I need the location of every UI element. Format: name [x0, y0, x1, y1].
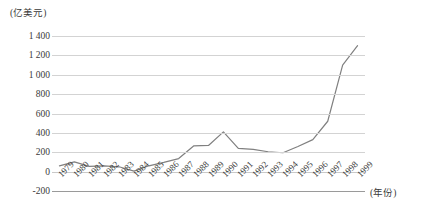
gridline-1400 [52, 36, 365, 37]
x-axis-tick-labels: 1979198019811982198319841985198619871988… [52, 172, 365, 216]
y-tick-label: -200 [4, 186, 50, 196]
y-tick-label: 600 [4, 109, 50, 119]
gridline-1200 [52, 55, 365, 56]
y-axis-tick-labels: 1 4001 2001 0008006004002000-200 [0, 36, 50, 191]
y-tick-label: 0 [4, 167, 50, 177]
y-tick-label: 200 [4, 147, 50, 157]
x-axis-unit-label: (年份) [370, 188, 396, 199]
y-tick-label: 400 [4, 128, 50, 138]
gridline-400 [52, 133, 365, 134]
gridline-1000 [52, 75, 365, 76]
y-tick-label: 1 200 [4, 50, 50, 60]
y-tick-label: 800 [4, 89, 50, 99]
y-axis-unit-label: (亿美元) [10, 8, 46, 19]
gridline-600 [52, 114, 365, 115]
gridline-200 [52, 152, 365, 153]
gridline-800 [52, 94, 365, 95]
y-tick-label: 1 000 [4, 70, 50, 80]
line-chart-figure: (亿美元) 1 4001 2001 0008006004002000-200 1… [0, 0, 422, 216]
y-tick-label: 1 400 [4, 31, 50, 41]
